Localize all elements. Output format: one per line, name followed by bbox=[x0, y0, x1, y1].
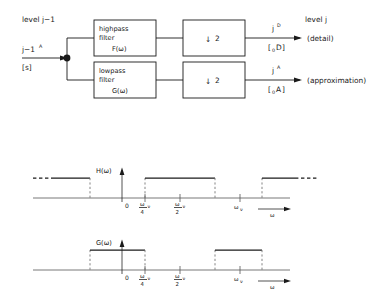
level-left-label: level j−1 bbox=[22, 15, 55, 24]
g-omega-tick-label-zero: 0 bbox=[125, 274, 129, 281]
approx-output-arrowhead bbox=[294, 78, 302, 83]
approx-out-superscript: A bbox=[277, 65, 281, 70]
input-main: j−1 bbox=[21, 45, 35, 54]
h-omega-half-numerator: ω bbox=[175, 201, 180, 207]
approx-out-main: j bbox=[271, 66, 274, 75]
h-omega-half-denominator: 2 bbox=[176, 209, 179, 215]
input-bracket: [s] bbox=[22, 63, 32, 72]
lowpass-transfer-function: G(ω) bbox=[112, 87, 128, 95]
h-omega-full-subscript-nu: ν bbox=[240, 207, 243, 212]
input-superscript: A bbox=[39, 44, 43, 49]
detail-out-main: j bbox=[271, 24, 274, 33]
g-omega-full-omega: ω bbox=[234, 276, 239, 282]
highpass-filter-line2: filter bbox=[99, 34, 115, 42]
lowpass-filter-line2: filter bbox=[99, 76, 115, 84]
h-omega-quarter-subscript-nu: ν bbox=[148, 204, 151, 209]
h-omega-tick-label-quarter: ω 4 ν bbox=[139, 201, 151, 215]
approx-bracket-close: ] bbox=[282, 85, 285, 94]
h-omega-y-axis-arrowhead bbox=[120, 168, 125, 176]
downsample-arrow-icon-approx: ↓ bbox=[205, 77, 211, 86]
detail-note: (detail) bbox=[307, 34, 334, 43]
h-omega-axis-arrowhead bbox=[284, 207, 291, 211]
detail-bracket-subscript: 0 bbox=[272, 48, 275, 53]
figure-root: level j−1 level j j−1 A [s] highpass fil… bbox=[0, 0, 386, 294]
g-omega-xlabel: ω bbox=[270, 284, 275, 290]
g-omega-axis-label: G(ω) bbox=[96, 239, 112, 247]
detail-output-arrowhead bbox=[294, 36, 302, 41]
level-right-label: level j bbox=[305, 15, 327, 24]
h-omega-tick-label-full: ω ν bbox=[234, 204, 243, 212]
figure-svg: level j−1 level j j−1 A [s] highpass fil… bbox=[0, 0, 386, 294]
h-omega-xlabel: ω bbox=[270, 212, 275, 218]
approx-note: (approximation) bbox=[307, 76, 366, 85]
h-omega-tick-label-half: ω 2 ν bbox=[174, 201, 186, 215]
g-omega-tick-label-quarter: ω 4 ν bbox=[139, 273, 151, 287]
g-omega-half-numerator: ω bbox=[175, 273, 180, 279]
block-diagram: level j−1 level j j−1 A [s] highpass fil… bbox=[21, 15, 366, 98]
g-omega-axis-arrowhead bbox=[284, 279, 291, 283]
g-omega-half-denominator: 2 bbox=[176, 281, 179, 287]
g-omega-quarter-numerator: ω bbox=[140, 273, 145, 279]
downsample-factor-approx: 2 bbox=[215, 76, 220, 85]
approx-bracket-open: [ bbox=[268, 85, 271, 94]
chart-g-omega: G(ω) 0 ω 4 ν ω 2 ν ω ν bbox=[33, 239, 291, 290]
downsample-arrow-icon-detail: ↓ bbox=[205, 35, 211, 44]
g-omega-tick-label-full: ω ν bbox=[234, 276, 243, 284]
g-omega-half-subscript-nu: ν bbox=[183, 276, 186, 281]
g-omega-full-subscript-nu: ν bbox=[240, 279, 243, 284]
detail-bracket-close: ] bbox=[282, 43, 285, 52]
h-omega-tick-label-zero: 0 bbox=[125, 202, 129, 209]
h-omega-half-subscript-nu: ν bbox=[183, 204, 186, 209]
g-omega-tick-label-half: ω 2 ν bbox=[174, 273, 186, 287]
h-omega-quarter-numerator: ω bbox=[140, 201, 145, 207]
approx-bracket-subscript: 0 bbox=[272, 90, 275, 95]
detail-out-superscript: D bbox=[277, 23, 281, 28]
downsample-box-approx[interactable] bbox=[183, 62, 245, 98]
approx-bracket-symbol: A bbox=[276, 85, 281, 94]
chart-h-omega: H(ω) 0 ω 4 ν ω 2 ν ω bbox=[33, 167, 318, 218]
lowpass-filter-line1: lowpass bbox=[99, 67, 126, 75]
downsample-box-detail[interactable] bbox=[183, 20, 245, 56]
g-omega-quarter-subscript-nu: ν bbox=[148, 276, 151, 281]
h-omega-quarter-denominator: 4 bbox=[141, 209, 145, 215]
g-omega-y-axis-arrowhead bbox=[120, 240, 125, 248]
h-omega-axis-label: H(ω) bbox=[96, 167, 112, 175]
detail-bracket-open: [ bbox=[268, 43, 271, 52]
g-omega-quarter-denominator: 4 bbox=[141, 281, 145, 287]
highpass-filter-line1: highpass bbox=[99, 25, 129, 33]
highpass-transfer-function: F(ω) bbox=[112, 45, 126, 53]
h-omega-full-omega: ω bbox=[234, 204, 239, 210]
downsample-factor-detail: 2 bbox=[215, 34, 220, 43]
